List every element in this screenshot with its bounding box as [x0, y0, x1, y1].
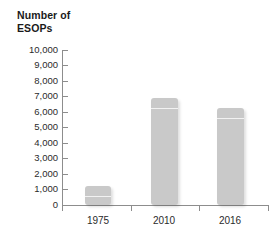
x-axis-tick: [62, 206, 63, 211]
bar-1975: [85, 186, 111, 205]
y-axis-tick: [63, 205, 68, 206]
y-axis-label: 5,000: [12, 122, 58, 132]
y-axis-label-wrap: 2,000: [12, 169, 58, 179]
x-axis-line: [62, 205, 269, 206]
y-axis-label: 4,000: [12, 138, 58, 148]
y-axis-tick: [63, 189, 68, 190]
y-axis-label: 7,000: [12, 91, 58, 101]
x-axis-tick: [199, 206, 200, 211]
x-axis-label-2010: 2010: [141, 215, 187, 227]
y-axis-label: 9,000: [12, 60, 58, 70]
y-axis-line: [62, 50, 63, 206]
y-axis-label-wrap: 5,000: [12, 122, 58, 132]
y-axis-label: 6,000: [12, 107, 58, 117]
x-axis-label-2016: 2016: [207, 215, 253, 227]
plot-area: 10,000 9,000 8,000 7,000 6,000 5,000 4,0…: [0, 0, 279, 245]
y-axis-label-wrap: 0: [12, 200, 58, 210]
y-axis-label-wrap: 10,000: [12, 45, 58, 55]
y-axis-tick: [63, 158, 68, 159]
x-axis-tick: [131, 206, 132, 211]
x-axis-label-1975: 1975: [75, 215, 121, 227]
bar-2010: [151, 98, 178, 205]
y-axis-label-wrap: 7,000: [12, 91, 58, 101]
y-axis-tick: [63, 50, 68, 51]
y-axis-label: 3,000: [12, 153, 58, 163]
y-axis-label: 1,000: [12, 184, 58, 194]
bar-2016: [217, 108, 244, 205]
y-axis-label-wrap: 1,000: [12, 184, 58, 194]
chart-figure: Number of ESOPs 10,000 9,000 8,000 7,000…: [0, 0, 279, 245]
y-axis-label-wrap: 4,000: [12, 138, 58, 148]
y-axis-tick: [63, 127, 68, 128]
y-axis-tick: [63, 143, 68, 144]
y-axis-label: 8,000: [12, 76, 58, 86]
y-axis-label-wrap: 3,000: [12, 153, 58, 163]
y-axis-label: 10,000: [12, 45, 58, 55]
y-axis-tick: [63, 81, 68, 82]
y-axis-label-wrap: 6,000: [12, 107, 58, 117]
y-axis-label: 2,000: [12, 169, 58, 179]
y-axis-tick: [63, 65, 68, 66]
x-axis-tick: [268, 206, 269, 211]
y-axis-label-wrap: 9,000: [12, 60, 58, 70]
y-axis-tick: [63, 174, 68, 175]
y-axis-label: 0: [12, 200, 58, 210]
y-axis-tick: [63, 112, 68, 113]
y-axis-label-wrap: 8,000: [12, 76, 58, 86]
y-axis-tick: [63, 96, 68, 97]
